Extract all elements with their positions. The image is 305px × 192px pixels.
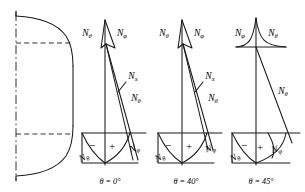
panel-1-label-bottom-right: Nφ — [203, 142, 217, 156]
panel-0-negative-sign: − — [89, 139, 95, 151]
panel-0-label-bottom-right: Nφ — [127, 142, 141, 156]
panel-2-negative-sign: − — [241, 139, 247, 151]
panel-0-label-mid-upper: Nx — [127, 71, 137, 82]
panel-1-negative-sign: − — [165, 139, 171, 151]
panel-0-label-top-left: Nθ — [81, 28, 92, 39]
panel-2-group: − + — [232, 18, 300, 165]
panel-0-caption: θ = 0° — [99, 177, 121, 186]
panel-2-label-bottom-right: Nφ — [269, 143, 282, 156]
stress-resultant-figure: − + − + − — [0, 0, 305, 192]
vessel-tangent-lines — [16, 43, 73, 134]
panel-2-positive-sign: + — [257, 141, 263, 153]
panel-1-label-top-right: Nφ — [193, 28, 204, 39]
panel-1-label-mid-upper: Nx — [204, 71, 214, 82]
panel-2-label-top-left: Nφ — [234, 28, 245, 39]
panel-0-label-top-right: Nφ — [116, 28, 127, 39]
vessel-outline-group — [16, 11, 73, 181]
panel-2-label-top-right: Nθ — [267, 28, 278, 39]
panel-0-nx-leader — [118, 82, 126, 92]
vessel-bottom-head-profile — [16, 126, 73, 176]
panel-1-label-mid-lower: Nθ — [207, 93, 218, 104]
figure-svg: − + − + − — [0, 0, 305, 192]
panel-2-caption: θ = 45° — [248, 177, 274, 186]
panel-1-label-top-left: Nθ — [158, 28, 169, 39]
panel-0-positive-sign: + — [109, 140, 115, 152]
panel-0-spike-right — [105, 20, 115, 48]
panel-1-positive-sign: + — [186, 140, 192, 152]
panel-1-ntheta-line — [183, 44, 208, 150]
panel-1-spike-right — [182, 20, 192, 48]
panel-1-nx-leader — [195, 82, 203, 92]
vessel-head-profile — [16, 16, 73, 66]
panel-0-label-mid-lower: Nθ — [130, 93, 141, 104]
panel-1-caption: θ = 40° — [173, 177, 199, 186]
panel-2-label-mid-lower: Nθ — [277, 86, 288, 97]
